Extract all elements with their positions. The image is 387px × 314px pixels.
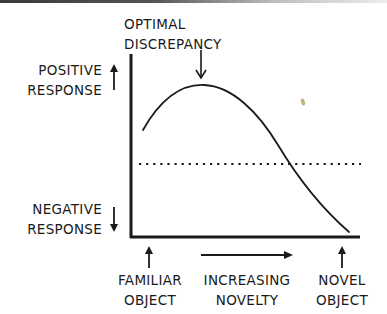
negative-response-label: NEGATIVE RESPONSE [10, 199, 102, 239]
familiar-object-line1: FAMILIAR [100, 270, 200, 290]
negative-response-line2: RESPONSE [10, 219, 102, 239]
novel-object-line2: OBJECT [302, 290, 382, 310]
peak-label: OPTIMAL DISCREPANCY [124, 14, 222, 54]
increasing-novelty-line2: NOVELTY [196, 290, 298, 310]
response-curve [143, 85, 349, 232]
novel-object-label: NOVEL OBJECT [302, 270, 382, 310]
arrow-right-icon [201, 251, 293, 259]
arrow-down-icon [110, 207, 118, 232]
positive-response-line1: POSITIVE [10, 60, 102, 80]
familiar-object-label: FAMILIAR OBJECT [100, 270, 200, 310]
increasing-novelty-label: INCREASING NOVELTY [196, 270, 298, 310]
arrow-up-icon [338, 246, 346, 268]
negative-response-line1: NEGATIVE [10, 199, 102, 219]
novel-object-line1: NOVEL [302, 270, 382, 290]
arrow-up-icon [110, 64, 118, 90]
familiar-object-line2: OBJECT [100, 290, 200, 310]
increasing-novelty-line1: INCREASING [196, 270, 298, 290]
positive-response-line2: RESPONSE [10, 80, 102, 100]
ink-smudge [300, 98, 306, 106]
arrow-up-icon [145, 246, 153, 268]
peak-label-line2: DISCREPANCY [124, 34, 222, 54]
arrow-down-icon [196, 50, 206, 78]
positive-response-label: POSITIVE RESPONSE [10, 60, 102, 100]
peak-label-line1: OPTIMAL [124, 14, 222, 34]
